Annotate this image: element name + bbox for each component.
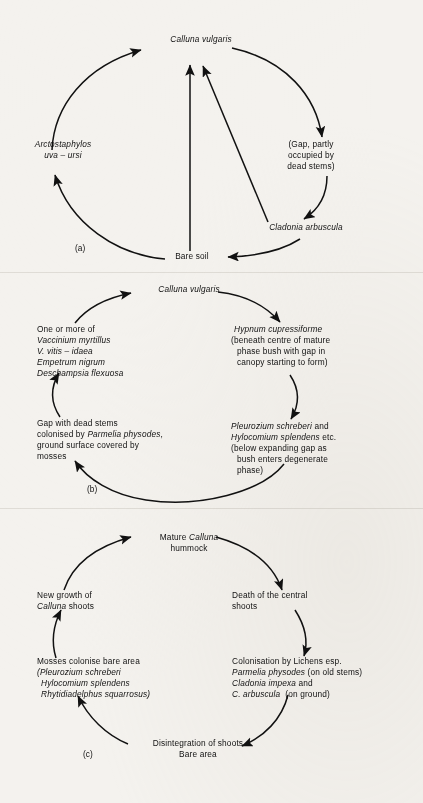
node-mosses-line1: Mosses colonise bare area xyxy=(37,656,140,666)
arrow-mosses-to-newgrowth xyxy=(53,610,61,658)
arrow-gap-to-species xyxy=(52,373,60,417)
node-shoots-label: shoots xyxy=(66,601,94,611)
node-arctostaphylos-line1: Arctostaphylos xyxy=(8,139,118,149)
arrow-newgrowth-to-hummock xyxy=(64,537,131,590)
arrow-gap-to-cladonia xyxy=(304,176,327,219)
node-hypnum-line4: canopy starting to form) xyxy=(237,357,328,367)
node-pleurozium-line2: Hylocomium splendens etc. xyxy=(231,432,336,442)
node-gap-line3: dead stems) xyxy=(258,161,364,171)
node-lichens-line4: C. arbuscula (on ground) xyxy=(232,689,330,699)
node-mature-hummock-line1: Mature Calluna xyxy=(131,532,247,542)
node-lichens-line2-suffix: (on old stems) xyxy=(305,667,362,677)
arrow-arctostaphylos-to-calluna xyxy=(52,50,141,150)
taxon-calluna-shoots: Calluna xyxy=(37,601,66,611)
arrow-death-to-lichens xyxy=(295,610,306,656)
node-species-line1: One or more of xyxy=(37,324,95,334)
taxon-cladonia-impexa: Cladonia impexa xyxy=(232,678,296,688)
node-species-line4: Empetrum nigrum xyxy=(37,357,105,367)
node-gap-line1: (Gap, partly xyxy=(258,139,364,149)
panel-a-tag: (a) xyxy=(75,243,85,253)
node-hypnum-line1: Hypnum cupressiforme xyxy=(234,324,322,334)
node-pleurozium-line4: bush enters degenerate xyxy=(237,454,328,464)
arrow-hypnum-to-pleurozium xyxy=(290,375,298,419)
panel-a-cycle: Calluna vulgaris Arctostaphylos uva – ur… xyxy=(0,0,423,276)
node-gap-dead-stems-line4: mosses xyxy=(37,451,67,461)
node-pleurozium-line1: Pleurozium schreberi and xyxy=(231,421,329,431)
node-hypnum-line3: phase bush with gap in xyxy=(237,346,325,356)
node-species-line3: V. vitis – idaea xyxy=(37,346,93,356)
taxon-pleurozium-schreberi-b: Pleurozium schreberi xyxy=(231,421,312,431)
arrow-baresoil-to-arctostaphylos xyxy=(55,175,165,259)
node-lichens-line3: Cladonia impexa and xyxy=(232,678,313,688)
node-disintegration-line1: Disintegration of shoots xyxy=(122,738,274,748)
node-pleurozium-line3: (below expanding gap as xyxy=(231,443,327,453)
figure-page: Calluna vulgaris Arctostaphylos uva – ur… xyxy=(0,0,423,803)
node-lichens-line4-suffix: (on ground) xyxy=(280,689,329,699)
node-mature-hummock-line2: hummock xyxy=(131,543,247,553)
arrow-cladonia-to-baresoil xyxy=(228,239,300,257)
node-newgrowth-line2: Calluna shoots xyxy=(37,601,94,611)
node-calluna-vulgaris-b: Calluna vulgaris xyxy=(131,284,247,294)
node-disintegration-line2: Bare area xyxy=(122,749,274,759)
node-gap-dead-stems-line1: Gap with dead stems xyxy=(37,418,118,428)
node-mosses-line4: Rhytidiadelphus squarrosus) xyxy=(41,689,150,699)
node-arctostaphylos-line2: uva – ursi xyxy=(8,150,118,160)
node-death-line2: shoots xyxy=(232,601,257,611)
panel-b-cycle: Calluna vulgaris One or more of Vacciniu… xyxy=(0,276,423,510)
node-lichens-line3-suffix: and xyxy=(296,678,313,688)
arrow-disintegration-to-mosses xyxy=(78,696,128,744)
node-bare-soil-a: Bare soil xyxy=(161,251,223,261)
node-gap-dead-stems-line2: colonised by Parmelia physodes, xyxy=(37,429,163,439)
panel-b-arrows xyxy=(0,276,423,510)
node-species-line2: Vaccinium myrtillus xyxy=(37,335,111,345)
panel-c-cycle: Mature Calluna hummock New growth of Cal… xyxy=(0,510,423,803)
node-pleurozium-line5: phase) xyxy=(237,465,263,475)
node-species-line5: Deschampsia flexuosa xyxy=(37,368,123,378)
node-calluna-vulgaris-a: Calluna vulgaris xyxy=(143,34,259,44)
node-gap-line2: occupied by xyxy=(258,150,364,160)
taxon-hylocomium-splendens-b: Hylocomium splendens xyxy=(231,432,320,442)
node-mosses-line3: Hylocomium splendens xyxy=(41,678,130,688)
taxon-c-arbuscula: C. arbuscula xyxy=(232,689,280,699)
node-lichens-line2: Parmelia physodes (on old stems) xyxy=(232,667,362,677)
taxon-parmelia-physodes-c: Parmelia physodes xyxy=(232,667,305,677)
node-gap-dead-stems-line3: ground surface covered by xyxy=(37,440,139,450)
node-lichens-line1: Colonisation by Lichens esp. xyxy=(232,656,342,666)
node-cladonia-arbuscula-a: Cladonia arbuscula xyxy=(241,222,371,232)
node-newgrowth-line1: New growth of xyxy=(37,590,92,600)
panel-b-tag: (b) xyxy=(87,484,97,494)
taxon-calluna-c: Calluna xyxy=(189,532,218,542)
node-death-line1: Death of the central xyxy=(232,590,307,600)
arrow-calluna-to-gap xyxy=(232,48,322,137)
panel-c-tag: (c) xyxy=(83,749,93,759)
node-mature-label: Mature xyxy=(160,532,189,542)
arrow-species-to-calluna-b xyxy=(75,293,131,323)
arrow-calluna-to-hypnum xyxy=(218,292,280,322)
node-hypnum-line2: (beneath centre of mature xyxy=(231,335,330,345)
taxon-parmelia-physodes-b: Parmelia physodes xyxy=(87,429,160,439)
node-mosses-line2: (Pleurozium schreberi xyxy=(37,667,121,677)
